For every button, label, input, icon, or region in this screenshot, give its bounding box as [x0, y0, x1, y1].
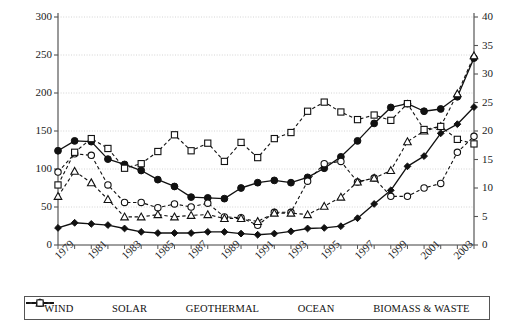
data-point-filled-circle	[254, 179, 261, 186]
data-point-open-square	[55, 182, 61, 188]
data-point-filled-circle	[238, 185, 245, 192]
series-markers-geothermal	[55, 133, 477, 228]
y-tick-label-right: 40	[482, 10, 512, 22]
series-markers-biomass-waste	[55, 99, 477, 188]
y-tick-label-left: 50	[14, 200, 52, 212]
data-point-open-triangle	[71, 167, 79, 174]
data-point-open-triangle	[304, 211, 312, 218]
data-point-filled-circle	[354, 137, 361, 144]
data-point-open-circle	[188, 204, 194, 210]
data-point-open-square	[338, 109, 344, 115]
data-point-open-square	[171, 132, 177, 138]
y-tick-label-left: 150	[14, 124, 52, 136]
y-tick-label-right: 30	[482, 67, 512, 79]
legend-label: OCEAN	[298, 303, 335, 314]
legend-label: BIOMASS & WASTE	[373, 303, 469, 314]
data-point-open-circle	[438, 180, 444, 186]
data-point-filled-diamond	[238, 230, 245, 237]
series-line-ocean	[58, 56, 474, 222]
data-point-filled-diamond	[105, 222, 112, 229]
data-point-open-square	[404, 101, 410, 107]
data-point-open-circle	[404, 193, 410, 199]
series-line-solar	[58, 58, 474, 199]
data-point-open-square	[388, 117, 394, 123]
y-tick-label-right: 15	[482, 153, 512, 165]
data-point-open-square	[205, 140, 211, 146]
data-point-filled-circle	[371, 120, 378, 127]
data-point-filled-circle	[188, 194, 195, 201]
data-point-open-triangle	[204, 211, 212, 218]
data-point-filled-diamond	[304, 225, 311, 232]
y-tick-label-right: 5	[482, 210, 512, 222]
data-point-filled-diamond	[337, 223, 344, 230]
data-point-open-triangle	[104, 196, 112, 203]
data-point-open-circle	[88, 152, 94, 158]
legend-item-solar[interactable]: SOLAR	[112, 303, 147, 314]
data-point-filled-circle	[437, 106, 444, 113]
data-point-open-circle	[321, 160, 327, 166]
data-point-filled-circle	[55, 147, 62, 154]
data-point-open-square	[454, 136, 460, 142]
y-tick-label-right: 20	[482, 124, 512, 136]
data-point-open-square	[221, 158, 227, 164]
data-point-open-triangle	[404, 138, 412, 145]
y-tick-label-right: 10	[482, 181, 512, 193]
legend-item-geothermal[interactable]: GEOTHERMAL	[186, 303, 259, 314]
data-point-open-square	[471, 141, 477, 147]
data-point-filled-circle	[271, 177, 278, 184]
data-point-filled-diamond	[55, 225, 62, 232]
data-point-filled-circle	[71, 137, 78, 144]
data-point-filled-circle	[288, 179, 295, 186]
data-point-open-circle	[121, 199, 127, 205]
data-point-filled-circle	[171, 183, 178, 190]
data-point-filled-diamond	[271, 230, 278, 237]
data-point-filled-circle	[421, 108, 428, 115]
data-point-open-square	[238, 139, 244, 145]
data-point-open-triangle	[54, 193, 62, 200]
y-tick-label-right: 25	[482, 96, 512, 108]
data-point-filled-diamond	[154, 230, 161, 237]
data-point-filled-diamond	[254, 231, 261, 238]
series-markers-wind	[55, 104, 478, 238]
data-point-open-square	[438, 123, 444, 129]
data-point-filled-circle	[221, 195, 228, 202]
y-tick-label-right: 35	[482, 39, 512, 51]
data-point-filled-diamond	[321, 225, 328, 232]
y-tick-label-right: 0	[482, 238, 512, 250]
legend-item-ocean[interactable]: OCEAN	[298, 303, 335, 314]
data-point-filled-circle	[105, 156, 112, 163]
data-point-filled-circle	[138, 167, 145, 174]
data-point-open-circle	[171, 201, 177, 207]
series-markers-ocean	[54, 52, 478, 225]
chart-legend: WINDSOLARGEOTHERMALOCEANBIOMASS & WASTE	[24, 296, 490, 320]
data-point-open-square	[354, 117, 360, 123]
data-point-open-square	[371, 112, 377, 118]
data-point-open-square	[288, 129, 294, 135]
data-point-open-square	[88, 136, 94, 142]
legend-label: SOLAR	[112, 303, 147, 314]
data-point-open-square	[271, 136, 277, 142]
data-point-open-circle	[105, 182, 111, 188]
data-point-filled-diamond	[288, 228, 295, 235]
y-tick-label-left: 300	[14, 10, 52, 22]
data-point-filled-diamond	[71, 219, 78, 226]
data-point-open-square	[72, 149, 78, 155]
data-point-open-square	[37, 300, 43, 306]
y-tick-label-left: 200	[14, 86, 52, 98]
data-point-open-square	[138, 161, 144, 167]
data-point-open-square	[188, 148, 194, 154]
data-point-open-square	[155, 148, 161, 154]
data-point-open-circle	[454, 149, 460, 155]
data-point-filled-diamond	[88, 221, 95, 228]
data-point-open-triangle	[387, 167, 395, 174]
data-point-open-triangle	[154, 211, 162, 218]
line-chart-canvas	[0, 0, 516, 328]
data-point-filled-diamond	[121, 225, 128, 232]
y-tick-label-left: 0	[14, 238, 52, 250]
data-point-open-square	[255, 155, 261, 161]
chart-root: 050100150200250300 0510152025303540 1979…	[0, 0, 516, 328]
legend-item-biomass-waste[interactable]: BIOMASS & WASTE	[373, 303, 469, 314]
series-markers-solar	[55, 55, 478, 202]
legend-swatch-open-square	[25, 297, 55, 309]
data-point-open-square	[121, 165, 127, 171]
